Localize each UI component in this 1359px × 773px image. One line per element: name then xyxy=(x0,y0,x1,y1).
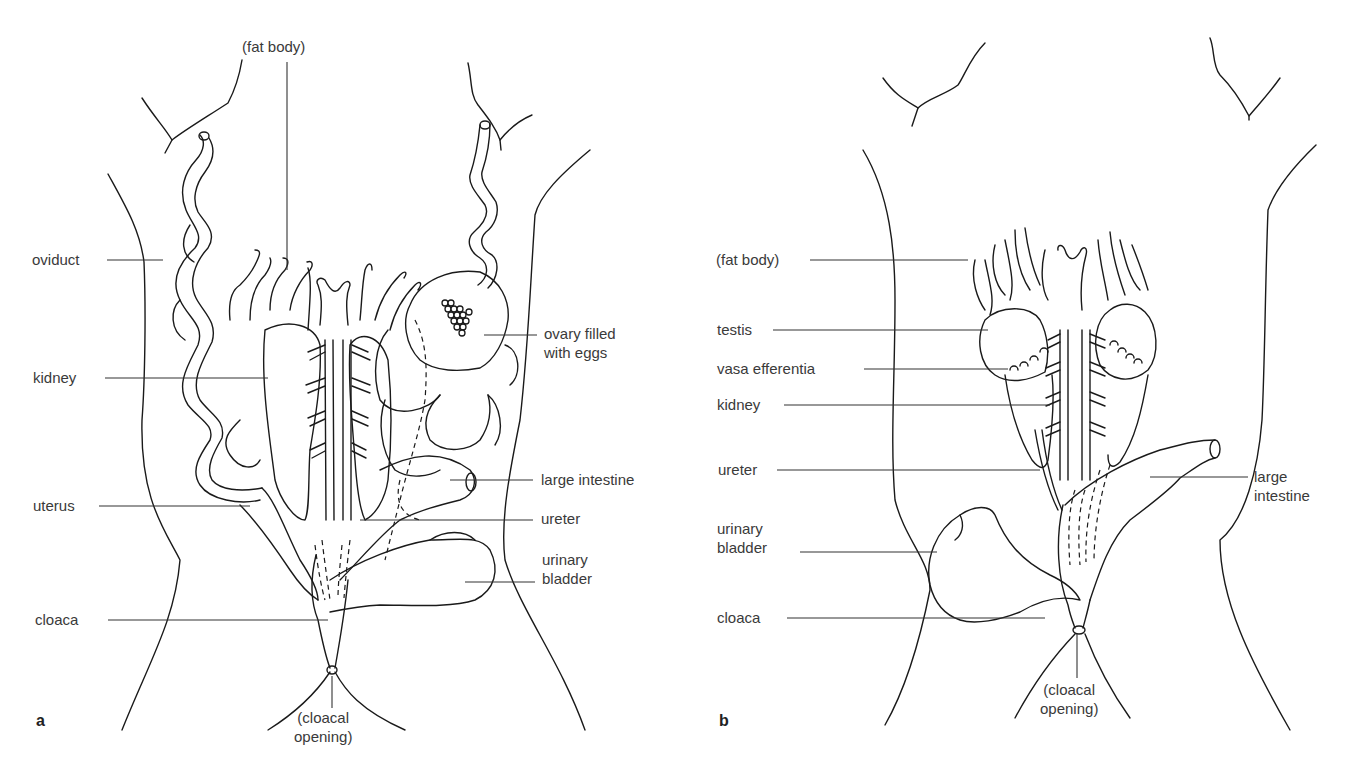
label-cloaca-a: cloaca xyxy=(35,610,78,629)
label-large-intestine-a: large intestine xyxy=(541,470,634,489)
label-ureter-b: ureter xyxy=(718,460,757,479)
frog-urogenital-figure: (fat body) oviduct kidney uterus cloaca … xyxy=(0,0,1359,773)
label-fat-body-a: (fat body) xyxy=(242,37,305,56)
panel-letter-b: b xyxy=(719,712,729,730)
anatomy-drawing xyxy=(0,0,1359,773)
label-uterus: uterus xyxy=(33,496,75,515)
label-kidney-b: kidney xyxy=(717,395,760,414)
label-urinary-bladder-a: urinary bladder xyxy=(542,550,592,588)
panel-letter-a: a xyxy=(36,712,45,730)
label-urinary-bladder-b: urinary bladder xyxy=(717,519,767,557)
label-cloacal-opening-b: (cloacal opening) xyxy=(1040,680,1098,718)
panel-b-drawing xyxy=(863,38,1316,730)
label-kidney-a: kidney xyxy=(33,368,76,387)
label-large-intestine-b: large intestine xyxy=(1254,467,1310,505)
label-cloacal-opening-a: (cloacal opening) xyxy=(294,708,352,746)
label-vasa-efferentia: vasa efferentia xyxy=(717,359,815,378)
egg-cluster xyxy=(442,300,472,336)
label-cloaca-b: cloaca xyxy=(717,608,760,627)
label-testis: testis xyxy=(717,320,752,339)
panel-a-drawing xyxy=(108,60,590,730)
label-ureter-a: ureter xyxy=(541,509,580,528)
panel-a-leaders xyxy=(99,62,537,708)
label-oviduct: oviduct xyxy=(32,250,80,269)
label-ovary: ovary filled with eggs xyxy=(544,324,616,362)
label-fat-body-b: (fat body) xyxy=(716,250,779,269)
